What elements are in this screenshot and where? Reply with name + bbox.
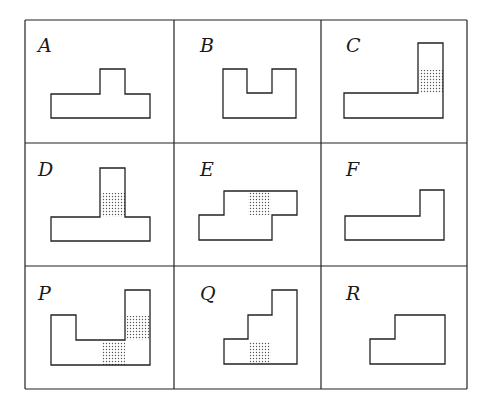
cell-label: C	[346, 34, 361, 56]
polyomino-shape	[51, 168, 150, 241]
shaded-square	[102, 342, 125, 365]
cell-label: Q	[200, 282, 216, 304]
cell-p: P	[37, 282, 150, 365]
cell-a: A	[36, 34, 150, 118]
cell-r: R	[345, 282, 445, 364]
shaded-square	[101, 193, 125, 217]
cell-label: E	[199, 158, 214, 180]
shaded-square	[249, 342, 271, 364]
polyomino-shape	[370, 315, 445, 364]
cell-b: B	[199, 34, 296, 118]
shaded-square	[419, 70, 443, 93]
cell-label: P	[37, 282, 52, 304]
cell-e: E	[199, 158, 297, 240]
shaded-square	[248, 192, 271, 215]
cell-label: D	[37, 158, 53, 180]
cells: ABCDEFPQR	[36, 34, 445, 365]
cell-c: C	[344, 34, 443, 118]
polyomino-shape	[223, 69, 296, 118]
cell-label: R	[345, 282, 360, 304]
shapes-grid-diagram: ABCDEFPQR	[0, 0, 489, 409]
shaded-square	[127, 316, 150, 340]
cell-label: B	[199, 34, 214, 56]
cell-d: D	[37, 158, 150, 241]
polyomino-shape	[51, 69, 150, 118]
cell-f: F	[345, 158, 444, 240]
cell-label: A	[36, 34, 52, 56]
grid-lines	[25, 20, 467, 389]
polyomino-shape	[345, 190, 444, 240]
cell-q: Q	[200, 282, 297, 364]
cell-label: F	[345, 158, 360, 180]
